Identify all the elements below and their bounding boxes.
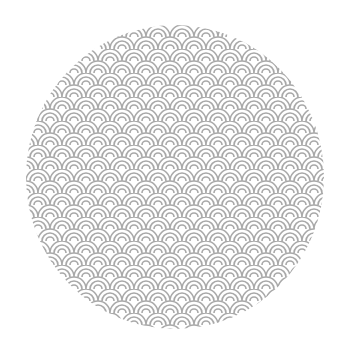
seigaiha-disc bbox=[26, 25, 324, 329]
wave-pattern-graphic bbox=[26, 25, 324, 329]
